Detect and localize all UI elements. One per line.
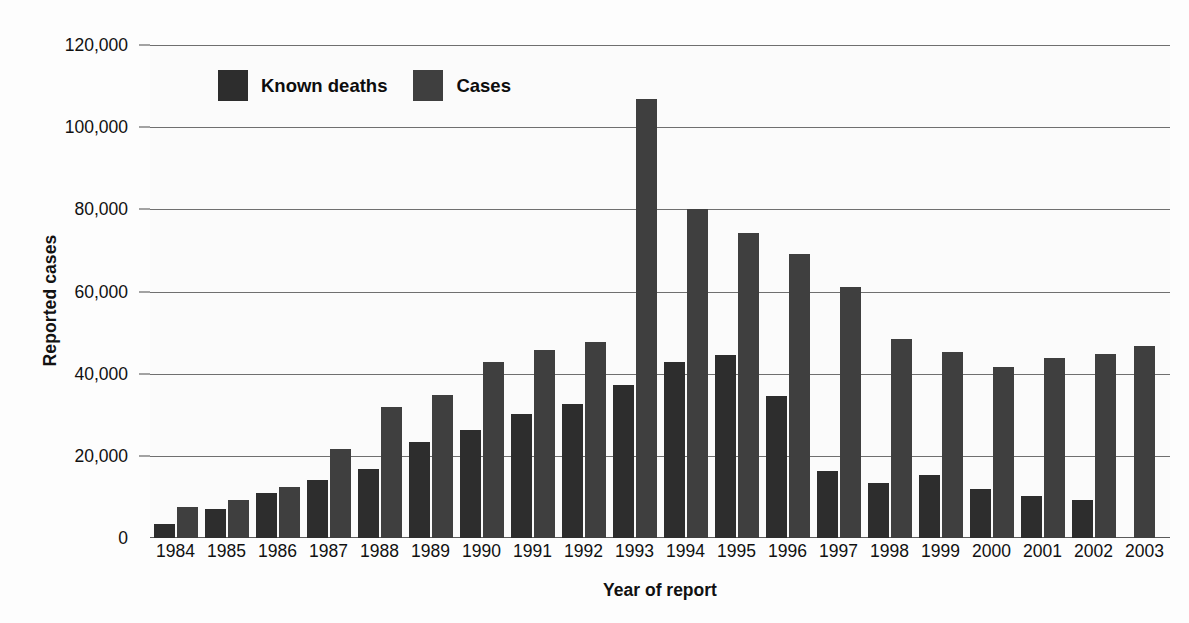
bar-cases-1986 — [279, 487, 300, 538]
bar-group — [150, 45, 201, 538]
y-tick-label: 40,000 — [74, 363, 128, 384]
bar-cases-1995 — [738, 233, 759, 538]
bar-known-deaths-1999 — [919, 475, 940, 538]
bar-known-deaths-1989 — [409, 442, 430, 538]
y-tick-label: 0 — [118, 528, 128, 549]
bar-known-deaths-1987 — [307, 480, 328, 538]
bar-known-deaths-1986 — [256, 493, 277, 538]
y-tick-mark — [139, 127, 150, 128]
bar-series-container — [150, 45, 1170, 538]
x-axis-tick-labels: 1984198519861987198819891990199119921993… — [150, 541, 1170, 571]
chart-legend: Known deathsCases — [218, 70, 511, 101]
y-tick-label: 80,000 — [74, 199, 128, 220]
bar-cases-2001 — [1044, 358, 1065, 538]
bar-cases-1992 — [585, 342, 606, 538]
chart-figure: Reported cases 020,00040,00060,00080,000… — [0, 0, 1189, 623]
bar-known-deaths-1998 — [868, 483, 889, 538]
bar-cases-1993 — [636, 99, 657, 538]
y-tick-mark — [139, 45, 150, 46]
bar-group — [1119, 45, 1170, 538]
bar-group — [507, 45, 558, 538]
bar-known-deaths-1997 — [817, 471, 838, 538]
bar-known-deaths-1991 — [511, 414, 532, 538]
bar-group — [762, 45, 813, 538]
x-axis-title: Year of report — [150, 580, 1170, 601]
bar-group — [201, 45, 252, 538]
bar-group — [864, 45, 915, 538]
y-tick-mark — [139, 455, 150, 456]
bar-cases-1989 — [432, 395, 453, 538]
bar-known-deaths-1990 — [460, 430, 481, 538]
x-tick-label: 1989 — [411, 541, 450, 562]
x-tick-label: 1998 — [870, 541, 909, 562]
x-tick-label: 2000 — [972, 541, 1011, 562]
x-tick-label: 1993 — [615, 541, 654, 562]
bar-group — [660, 45, 711, 538]
y-tick-mark — [139, 291, 150, 292]
legend-label: Known deaths — [261, 75, 387, 97]
bar-cases-1984 — [177, 507, 198, 538]
bar-group — [405, 45, 456, 538]
bar-cases-1996 — [789, 254, 810, 538]
bar-known-deaths-2000 — [970, 489, 991, 538]
bar-cases-2002 — [1095, 354, 1116, 538]
x-tick-label: 1992 — [564, 541, 603, 562]
bar-known-deaths-1994 — [664, 362, 685, 538]
bar-group — [303, 45, 354, 538]
x-tick-label: 1997 — [819, 541, 858, 562]
bar-known-deaths-1995 — [715, 355, 736, 538]
bar-group — [609, 45, 660, 538]
bar-known-deaths-2002 — [1072, 500, 1093, 538]
x-tick-label: 1996 — [768, 541, 807, 562]
x-tick-label: 1994 — [666, 541, 705, 562]
x-tick-label: 2002 — [1074, 541, 1113, 562]
x-tick-label: 1984 — [156, 541, 195, 562]
bar-cases-1994 — [687, 209, 708, 538]
bar-cases-1988 — [381, 407, 402, 538]
legend-swatch-icon — [218, 70, 248, 101]
bar-group — [915, 45, 966, 538]
bar-cases-1998 — [891, 339, 912, 538]
x-tick-label: 1995 — [717, 541, 756, 562]
x-tick-label: 2003 — [1125, 541, 1164, 562]
x-tick-label: 1985 — [207, 541, 246, 562]
bar-group — [456, 45, 507, 538]
y-tick-label: 120,000 — [65, 35, 128, 56]
bar-cases-1985 — [228, 500, 249, 538]
legend-label: Cases — [456, 75, 511, 97]
bar-group — [354, 45, 405, 538]
bar-known-deaths-1984 — [154, 524, 175, 538]
bar-cases-2003 — [1134, 346, 1155, 538]
y-tick-label: 100,000 — [65, 117, 128, 138]
y-tick-label: 60,000 — [74, 281, 128, 302]
bar-cases-1999 — [942, 352, 963, 538]
bar-group — [558, 45, 609, 538]
bar-group — [1017, 45, 1068, 538]
bar-group — [966, 45, 1017, 538]
bar-known-deaths-2001 — [1021, 496, 1042, 538]
bar-cases-1997 — [840, 287, 861, 538]
x-tick-label: 1988 — [360, 541, 399, 562]
plot-area — [150, 45, 1170, 538]
y-tick-mark — [139, 209, 150, 210]
x-tick-label: 2001 — [1023, 541, 1062, 562]
bar-group — [1068, 45, 1119, 538]
x-tick-label: 1987 — [309, 541, 348, 562]
x-tick-label: 1991 — [513, 541, 552, 562]
bar-cases-1991 — [534, 350, 555, 538]
legend-entry-known-deaths: Known deaths — [218, 70, 387, 101]
bar-cases-2000 — [993, 367, 1014, 538]
x-tick-label: 1999 — [921, 541, 960, 562]
bar-known-deaths-1985 — [205, 509, 226, 538]
bar-group — [252, 45, 303, 538]
legend-swatch-icon — [413, 70, 443, 101]
bar-known-deaths-1988 — [358, 469, 379, 538]
bar-known-deaths-1993 — [613, 385, 634, 538]
x-tick-label: 1986 — [258, 541, 297, 562]
bar-known-deaths-1992 — [562, 404, 583, 538]
bar-group — [813, 45, 864, 538]
legend-entry-cases: Cases — [413, 70, 511, 101]
y-tick-label: 20,000 — [74, 445, 128, 466]
y-tick-mark — [139, 373, 150, 374]
bar-cases-1987 — [330, 449, 351, 538]
